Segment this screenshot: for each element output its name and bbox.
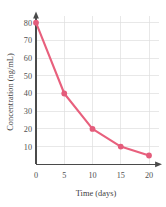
- x-tick-label: 0: [34, 171, 38, 180]
- y-tick-label: 50: [24, 72, 32, 81]
- chart-container: 10 20 30 40 50 60 70 80 0 5 10 15 20 Tim…: [0, 0, 166, 207]
- data-point: [61, 91, 67, 97]
- concentration-time-line-chart: 10 20 30 40 50 60 70 80 0 5 10 15 20 Tim…: [0, 0, 166, 207]
- data-point: [146, 153, 152, 159]
- y-tick-label: 70: [24, 36, 32, 45]
- x-tick-label: 10: [88, 171, 96, 180]
- y-tick-label: 60: [24, 54, 32, 63]
- y-axis: [33, 12, 39, 165]
- x-tick-labels: 0 5 10 15 20: [34, 171, 153, 180]
- y-tick-label: 80: [24, 19, 32, 28]
- x-tick-label: 5: [62, 171, 66, 180]
- y-tick-label: 10: [24, 143, 32, 152]
- y-tick-labels: 10 20 30 40 50 60 70 80: [24, 19, 32, 152]
- y-tick-label: 20: [24, 125, 32, 134]
- gridlines-vertical: [64, 16, 149, 164]
- x-tick-label: 20: [145, 171, 153, 180]
- y-axis-title: Concentration (ng/mL): [6, 53, 15, 131]
- x-axis: [36, 161, 162, 167]
- data-point: [118, 144, 124, 150]
- y-tick-label: 30: [24, 107, 32, 116]
- data-point: [33, 20, 39, 26]
- x-tick-label: 15: [117, 171, 125, 180]
- y-tick-label: 40: [24, 89, 32, 98]
- x-axis-title: Time (days): [76, 189, 117, 198]
- gridlines-horizontal: [36, 23, 159, 147]
- data-point: [90, 126, 96, 132]
